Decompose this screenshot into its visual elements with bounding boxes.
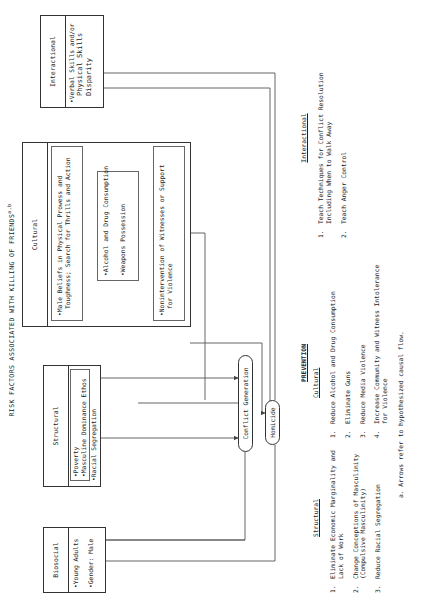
prevention-title: PREVENTION <box>300 313 308 413</box>
prevention-heading-wrap: PREVENTION <box>300 313 308 413</box>
interactional-item: Verbal Skills and/or <box>68 23 76 103</box>
prevention-cultural: Cultural 1.Reduce Alcohol and Drug Consu… <box>312 258 396 438</box>
rotated-page: RISK FACTORS ASSOCIATED WITH KILLING OF … <box>0 0 421 613</box>
prevention-item: 3.Reduce Racial Segregation <box>374 443 382 593</box>
cultural-item: Alcohol and Drug Consumption <box>102 176 110 276</box>
cultural-header: Cultural <box>23 143 48 326</box>
cultural-group-witnesses: Nonintervention of Witnesses or Support … <box>153 146 185 321</box>
structural-item: Masculine Dominance Ethos <box>80 373 88 477</box>
conflict-generation-node: Conflict Generation <box>238 355 253 452</box>
footnote: a. Arrows refer to hypothesized causal f… <box>397 331 405 498</box>
cultural-item: Nonintervention of Witnesses or Support <box>158 151 166 316</box>
biosocial-header: Biosocial <box>44 528 69 592</box>
prevention-structural-header: Structural <box>312 443 320 593</box>
prevention-item: 2.Change Conceptions of Masculinity(Comp… <box>352 443 368 593</box>
interactional-box: Interactional Verbal Skills and/or Physi… <box>40 15 104 108</box>
cultural-group-beliefs: Male Beliefs in Physical Prowess and Tou… <box>51 146 83 321</box>
prevention-item: 1.Eliminate Economic Marginality andLack… <box>329 443 345 593</box>
cultural-box: Cultural Male Beliefs in Physical Prowes… <box>22 142 191 327</box>
structural-item: Racial Segregation <box>90 409 98 481</box>
biosocial-box: Biosocial Young Adults Gender: Male <box>43 527 106 593</box>
cultural-item-cont: for Violence <box>166 151 174 316</box>
prevention-item: 3.Reduce Media Violence <box>359 258 367 438</box>
biosocial-item: Young Adults <box>72 539 80 588</box>
structural-inner-group: Poverty Masculine Dominance Ethos <box>70 369 90 481</box>
prevention-item: 4.Increase Community and Witness Intoler… <box>373 258 389 438</box>
structural-header: Structural <box>44 366 69 486</box>
structural-box: Structural Poverty Masculine Dominance E… <box>43 365 101 487</box>
prevention-interactional-header: Interactional <box>300 38 308 238</box>
prevention-cultural-header: Cultural <box>312 258 320 438</box>
prevention-item: 1.Teach Techniques for Conflict Resoluti… <box>317 38 333 238</box>
prevention-item: 2.Teach Anger Control <box>340 38 348 238</box>
prevention-structural: Structural 1.Eliminate Economic Marginal… <box>312 443 389 593</box>
cultural-item: Weapons Possession <box>119 176 127 276</box>
interactional-item-cont: Disparity <box>85 23 94 103</box>
biosocial-item: Gender: Male <box>87 539 95 588</box>
cultural-group-substances: Alcohol and Drug Consumption Weapons Pos… <box>97 171 139 281</box>
cultural-item-cont: Toughness; Search for Thrills and Action <box>64 151 72 316</box>
homicide-node: Homicide <box>265 400 280 445</box>
interactional-header: Interactional <box>41 16 66 107</box>
prevention-interactional: Interactional 1.Teach Techniques for Con… <box>300 38 354 238</box>
prevention-item: 1.Reduce Alcohol and Drug Consumption <box>329 258 337 438</box>
prevention-item: 2.Eliminate Guns <box>344 258 352 438</box>
interactional-item-cont: Physical Skills <box>76 23 85 103</box>
cultural-item: Male Beliefs in Physical Prowess and <box>56 151 64 316</box>
structural-item: Poverty <box>72 373 80 477</box>
